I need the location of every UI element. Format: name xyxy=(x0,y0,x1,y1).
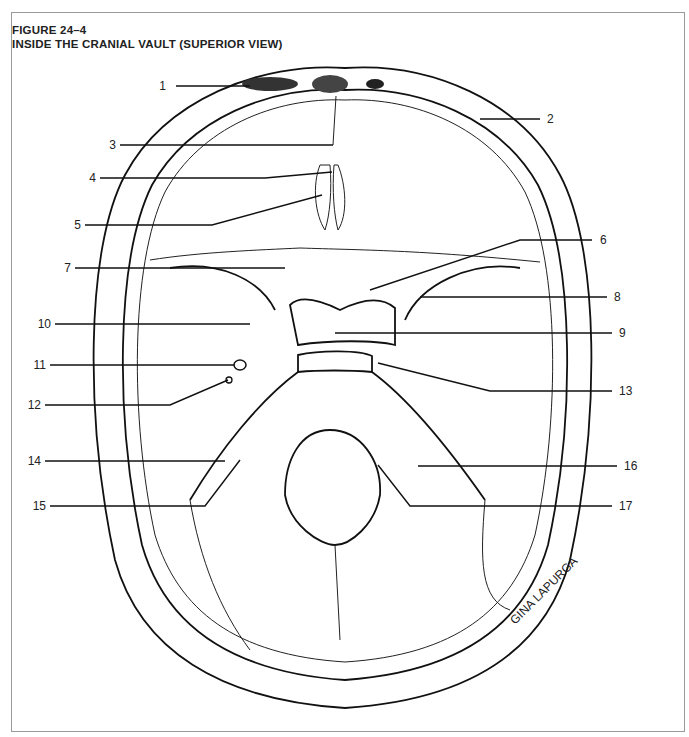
label-2: 2 xyxy=(547,112,554,126)
label-10: 10 xyxy=(38,317,52,331)
occipital-fossa-right xyxy=(483,500,510,610)
label-17: 17 xyxy=(619,499,633,513)
label-13: 13 xyxy=(619,384,633,398)
occipital-fossa-left xyxy=(190,500,250,650)
label-15: 15 xyxy=(33,499,47,513)
label-16: 16 xyxy=(624,459,638,473)
label-4: 4 xyxy=(89,171,96,185)
label-12: 12 xyxy=(28,398,42,412)
label-11: 11 xyxy=(34,358,47,372)
label-9: 9 xyxy=(619,326,626,340)
foramen-ovale xyxy=(234,360,246,370)
cranial-vault-illustration: GINA LAPURGA 1 2 3 4 5 6 7 8 9 10 11 12 … xyxy=(0,0,689,737)
label-1: 1 xyxy=(159,79,166,93)
label-14: 14 xyxy=(28,454,42,468)
label-5: 5 xyxy=(74,218,81,232)
lesser-wing-left xyxy=(170,266,275,310)
label-3: 3 xyxy=(109,138,116,152)
label-7: 7 xyxy=(64,261,71,275)
crista-galli xyxy=(315,96,344,230)
dorsum-sellae xyxy=(298,351,372,372)
petrous-ridge-right xyxy=(372,372,485,500)
foramen-magnum xyxy=(285,430,380,545)
lesser-wing-ridge xyxy=(150,248,540,262)
internal-table xyxy=(137,100,552,662)
internal-occipital-crest xyxy=(335,545,340,640)
petrous-ridge-left xyxy=(190,372,298,500)
leader-lines xyxy=(45,86,617,506)
lesser-wing-right xyxy=(405,267,520,320)
sella-turcica xyxy=(290,300,395,345)
label-8: 8 xyxy=(614,290,621,304)
label-6: 6 xyxy=(600,233,607,247)
